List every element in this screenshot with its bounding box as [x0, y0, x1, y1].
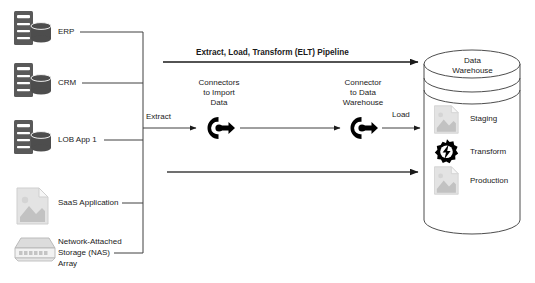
document-icon	[433, 165, 462, 196]
document-icon	[433, 104, 462, 135]
diagram-canvas: ERP CRM LOB App 1 SaaS Application Netwo…	[0, 0, 535, 283]
warehouse-zone-label-staging: Staging	[470, 114, 497, 124]
flow-label-load: Load	[392, 110, 410, 120]
connector-2-label-line1: Connector	[330, 78, 396, 88]
gear-bolt-icon	[433, 138, 461, 166]
connector-arrow-icon	[204, 114, 236, 142]
connector-1-label-line3: Data	[190, 98, 248, 108]
warehouse-zone-label-transform: Transform	[470, 147, 506, 157]
pipeline-title: Extract, Load, Transform (ELT) Pipeline	[196, 48, 349, 58]
connector-1-label-line2: to Import	[190, 88, 248, 98]
connector-1-label-line1: Connectors	[190, 78, 248, 88]
connector-2-label-line3: Warehouse	[330, 98, 396, 108]
connector-2-label-line2: to Data	[330, 88, 396, 98]
warehouse-zone-label-production: Production	[470, 176, 508, 186]
flow-label-extract: Extract	[146, 112, 171, 122]
warehouse-title-line1: Data	[430, 56, 515, 66]
connector-arrow-icon	[347, 114, 379, 142]
warehouse-title-line2: Warehouse	[430, 66, 515, 76]
